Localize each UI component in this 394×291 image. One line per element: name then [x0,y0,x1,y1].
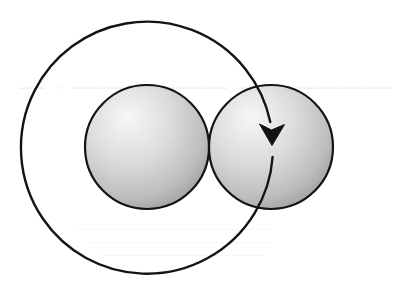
sphere-right-body [209,85,333,209]
sphere-right [209,85,333,209]
sphere-left [85,85,209,209]
sphere-left-body [85,85,209,209]
